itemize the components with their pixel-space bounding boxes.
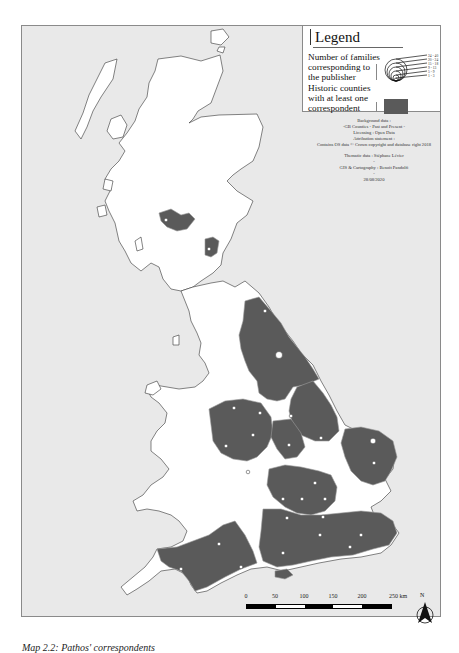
proportional-circles-icon	[383, 52, 429, 88]
legend: Legend Number of families corresponding …	[302, 25, 441, 112]
north-arrow-icon	[414, 600, 436, 626]
land-mass	[75, 29, 399, 595]
north-arrow: N	[414, 594, 436, 628]
map-canvas	[22, 26, 441, 617]
credits: Background data : -GB Counties - Past an…	[289, 118, 459, 183]
map-frame	[21, 25, 441, 617]
legend-divider	[313, 47, 403, 48]
legend-fill-label: Historic counties with at least one corr…	[308, 83, 382, 113]
scale-bar-segments	[246, 604, 392, 609]
north-label: N	[420, 592, 424, 598]
figure-caption: Map 2.2: Pathos' correspondents	[22, 642, 155, 653]
legend-title: Legend	[310, 29, 360, 45]
legend-symbol-label: Number of families corresponding to the …	[308, 52, 382, 82]
legend-classes: 24 - 40 20 - 24 15 - 18 9 - 13 5 - 9 1 -…	[428, 54, 438, 79]
legend-separator	[376, 64, 377, 80]
legend-separator	[376, 102, 377, 112]
scale-labels: 0 50 100 150 200 250 km	[246, 593, 436, 603]
legend-fill-swatch	[384, 99, 408, 114]
